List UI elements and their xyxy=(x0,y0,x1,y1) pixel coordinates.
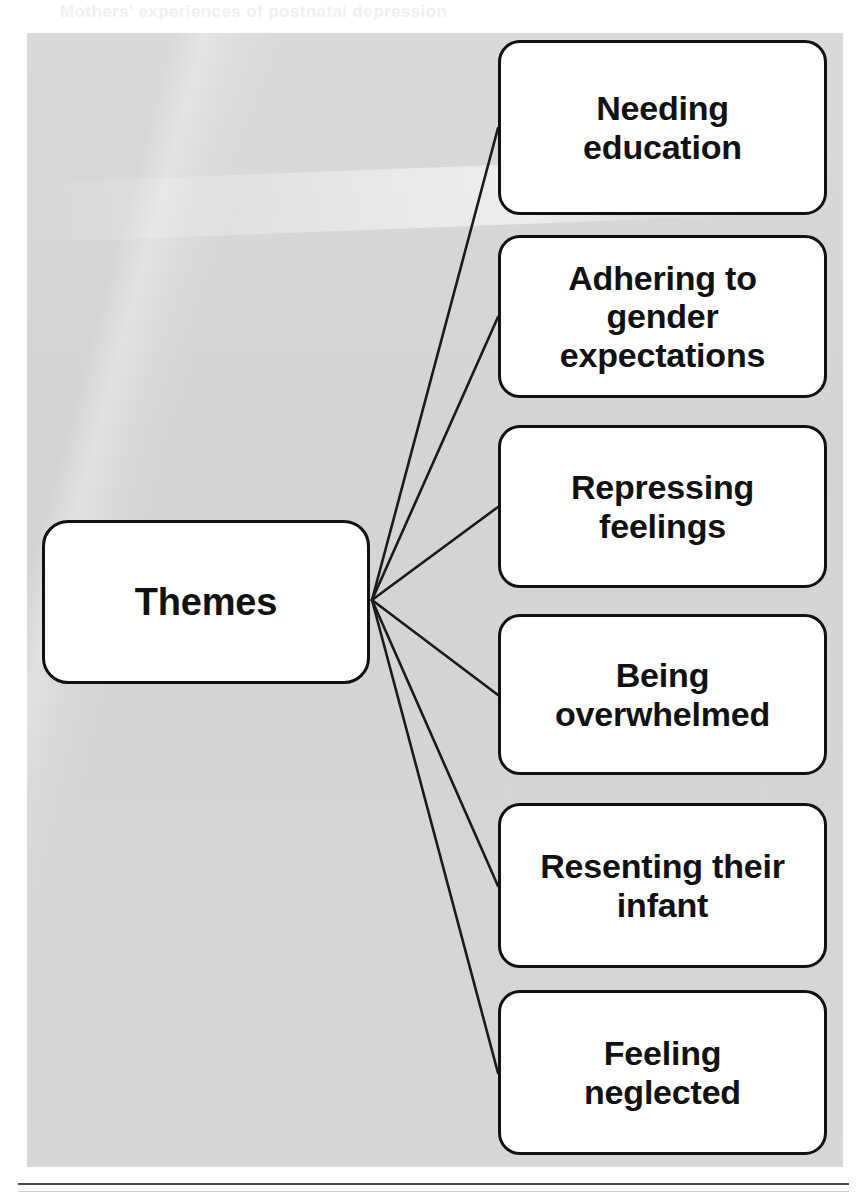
node-branch-being-overwhelmed[interactable]: Being overwhelmed xyxy=(498,614,827,775)
page-canvas: Mothers' experiences of postnatal depres… xyxy=(0,0,867,1195)
node-branch-label: Adhering to gender expectations xyxy=(560,259,765,374)
node-branch-needing-education[interactable]: Needing education xyxy=(498,40,827,215)
node-branch-label: Needing education xyxy=(583,89,742,166)
node-branch-label: Resenting their infant xyxy=(540,847,784,924)
page-showthrough-text: Mothers' experiences of postnatal depres… xyxy=(60,2,847,26)
footer-divider xyxy=(18,1183,849,1185)
node-branch-label: Feeling neglected xyxy=(584,1034,741,1111)
node-branch-feeling-neglected[interactable]: Feeling neglected xyxy=(498,990,827,1155)
node-root-label: Themes xyxy=(135,581,277,624)
node-branch-repressing-feelings[interactable]: Repressing feelings xyxy=(498,425,827,588)
node-branch-label: Repressing feelings xyxy=(571,468,754,545)
node-themes-root[interactable]: Themes xyxy=(42,520,370,684)
node-branch-adhering-to-gender-expectations[interactable]: Adhering to gender expectations xyxy=(498,235,827,398)
node-branch-resenting-their-infant[interactable]: Resenting their infant xyxy=(498,803,827,968)
footer-divider-secondary xyxy=(18,1191,849,1192)
node-branch-label: Being overwhelmed xyxy=(555,656,770,733)
